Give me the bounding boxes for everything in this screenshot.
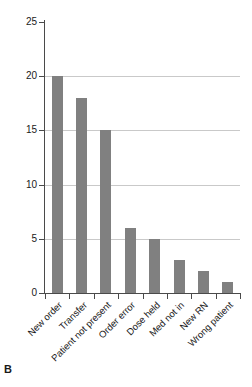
y-tick-label-25: 25 bbox=[0, 17, 37, 27]
bar[interactable] bbox=[100, 130, 111, 293]
y-tick-5 bbox=[39, 239, 44, 240]
x-tick-7 bbox=[216, 294, 217, 299]
y-tick-0 bbox=[39, 293, 44, 294]
x-tick-3 bbox=[118, 294, 119, 299]
y-tick-25 bbox=[39, 22, 44, 23]
y-tick-label-0: 0 bbox=[0, 288, 37, 298]
bar[interactable] bbox=[125, 228, 136, 293]
x-tick-4 bbox=[143, 294, 144, 299]
x-tick-8 bbox=[240, 294, 241, 299]
x-tick-1 bbox=[69, 294, 70, 299]
x-tick-6 bbox=[191, 294, 192, 299]
y-tick-10 bbox=[39, 185, 44, 186]
y-tick-label-15: 15 bbox=[0, 125, 37, 135]
panel-label: B bbox=[4, 363, 12, 375]
x-tick-2 bbox=[94, 294, 95, 299]
bar[interactable] bbox=[149, 239, 160, 293]
bar[interactable] bbox=[174, 260, 185, 293]
bar[interactable] bbox=[198, 271, 209, 293]
y-tick-label-5: 5 bbox=[0, 234, 37, 244]
x-tick-0 bbox=[45, 294, 46, 299]
y-tick-label-20: 20 bbox=[0, 71, 37, 81]
y-tick-15 bbox=[39, 130, 44, 131]
bar[interactable] bbox=[76, 98, 87, 293]
bar[interactable] bbox=[52, 76, 63, 293]
bars-group bbox=[45, 22, 240, 293]
y-tick-label-10: 10 bbox=[0, 180, 37, 190]
bar[interactable] bbox=[222, 282, 233, 293]
x-tick-5 bbox=[167, 294, 168, 299]
y-tick-20 bbox=[39, 76, 44, 77]
bar-chart-figure: 0510152025 New orderTransferPatient not … bbox=[0, 0, 252, 387]
